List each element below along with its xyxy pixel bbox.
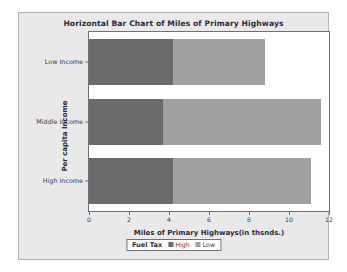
bar-segment-high[interactable]: [89, 99, 163, 145]
bar-segment-low[interactable]: [173, 39, 265, 85]
bar-row: [89, 158, 311, 204]
legend-swatch-low: [196, 242, 201, 247]
y-axis-title: Per capita Income: [61, 100, 69, 171]
legend-label-high: High: [175, 241, 189, 248]
x-tick-mark: [249, 211, 250, 215]
x-tick-mark: [209, 211, 210, 215]
legend-label-low: Low: [203, 241, 215, 248]
x-tick-mark: [289, 211, 290, 215]
x-tick-mark: [169, 211, 170, 215]
y-tick-label: High Income: [43, 177, 89, 185]
legend-swatch-high: [168, 242, 173, 247]
x-axis-title: Miles of Primary Highways(in thsnds.): [88, 229, 330, 237]
x-tick-label: 12: [325, 216, 333, 223]
x-tick-label: 6: [207, 216, 211, 223]
x-tick-label: 2: [127, 216, 131, 223]
bar-row: [89, 39, 265, 85]
legend-entry-high[interactable]: High: [168, 241, 189, 248]
bar-segment-low[interactable]: [173, 158, 311, 204]
legend-entry-low[interactable]: Low: [196, 241, 215, 248]
x-tick-label: 10: [285, 216, 293, 223]
bar-segment-high[interactable]: [89, 158, 173, 204]
chart-title: Horizontal Bar Chart of Miles of Primary…: [19, 19, 328, 28]
x-tick-mark: [329, 211, 330, 215]
x-tick-label: 4: [167, 216, 171, 223]
plot-area: Low IncomeMiddle IncomeHigh Income024681…: [88, 31, 330, 212]
y-tick-label: Low Income: [45, 58, 89, 66]
x-tick-label: 0: [87, 216, 91, 223]
x-tick-mark: [129, 211, 130, 215]
x-tick-mark: [89, 211, 90, 215]
legend-title: Fuel Tax: [132, 241, 162, 249]
bar-segment-low[interactable]: [163, 99, 321, 145]
chart-legend: Fuel Tax High Low: [126, 239, 221, 251]
chart-figure: Horizontal Bar Chart of Miles of Primary…: [18, 12, 329, 260]
x-tick-label: 8: [247, 216, 251, 223]
y-tick-label: Middle Income: [36, 118, 89, 126]
bar-segment-high[interactable]: [89, 39, 173, 85]
bar-row: [89, 99, 321, 145]
